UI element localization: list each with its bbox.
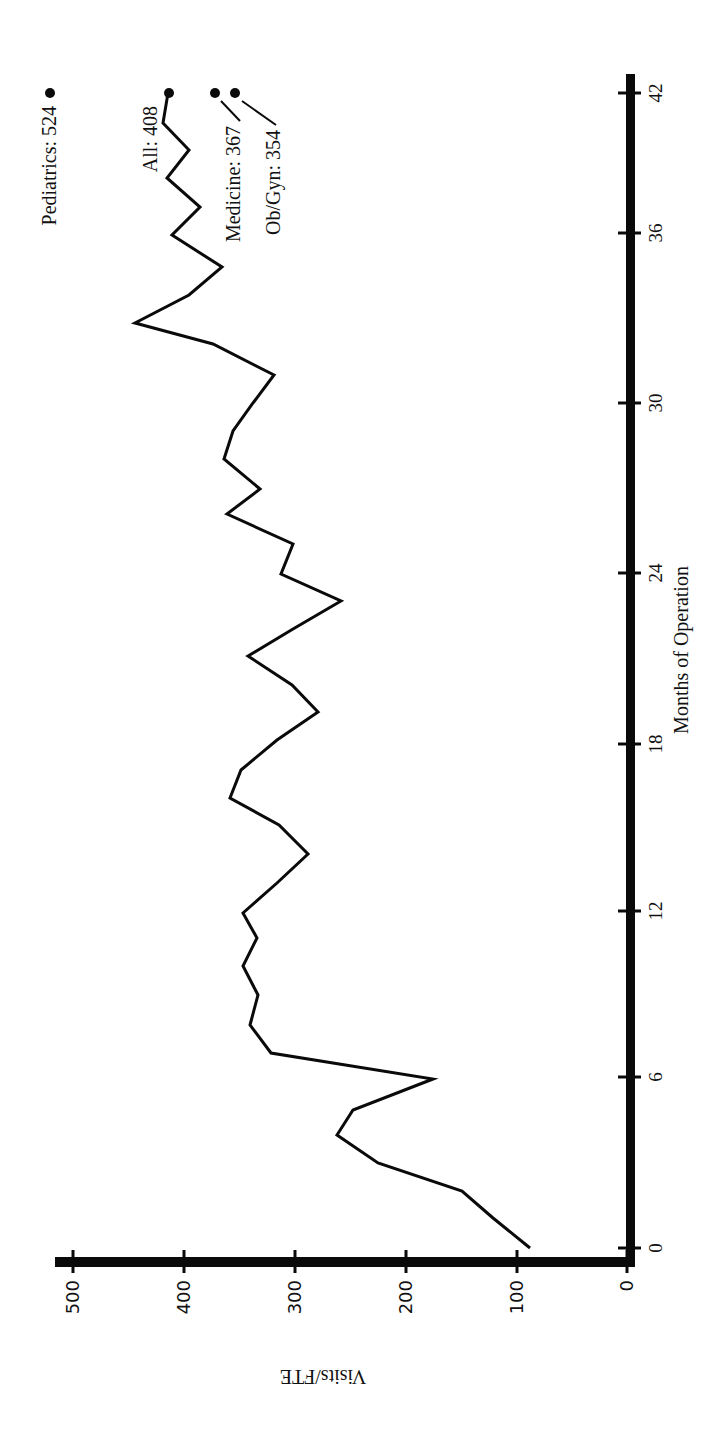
value-tick-500: 500: [62, 1280, 83, 1314]
annotation-medicine: Medicine: 367: [222, 126, 244, 242]
month-axis-title: Months of Operation: [670, 566, 693, 734]
chart: 0 100 200 300 400 500 Visits/FTE 0 6 12 …: [0, 0, 723, 1441]
value-tick-200: 200: [395, 1280, 416, 1314]
value-tick-300: 300: [284, 1280, 305, 1314]
month-axis-line: [626, 74, 635, 1267]
month-tick-0: 0: [645, 1243, 666, 1253]
value-axis-title: Visits/FTE: [280, 1366, 367, 1388]
value-axis-line: [55, 1257, 635, 1267]
dot-pediatrics: [45, 88, 55, 98]
dot-medicine: [210, 88, 220, 98]
value-tick-0: 0: [616, 1280, 637, 1291]
month-tick-42: 42: [645, 84, 666, 103]
annotation-all: All: 408: [139, 106, 161, 172]
dot-obgyn: [230, 88, 240, 98]
month-tick-6: 6: [645, 1072, 666, 1082]
annotation-obgyn: Ob/Gyn: 354: [262, 130, 285, 235]
month-tick-18: 18: [645, 735, 666, 754]
series-all-line: [135, 93, 530, 1248]
month-tick-24: 24: [645, 563, 666, 583]
dot-all: [164, 88, 174, 98]
annotation-pediatrics: Pediatrics: 524: [38, 106, 60, 225]
month-tick-30: 30: [645, 394, 666, 413]
month-tick-36: 36: [645, 224, 666, 243]
leader-obgyn: [242, 101, 276, 125]
month-tick-12: 12: [645, 902, 666, 921]
value-tick-400: 400: [173, 1280, 194, 1314]
value-tick-labels: 0 100 200 300 400 500: [62, 1280, 637, 1314]
value-tick-100: 100: [506, 1280, 527, 1314]
leader-medicine: [221, 101, 240, 121]
month-tick-labels: 0 6 12 18 24 30 36 42: [645, 84, 666, 1253]
